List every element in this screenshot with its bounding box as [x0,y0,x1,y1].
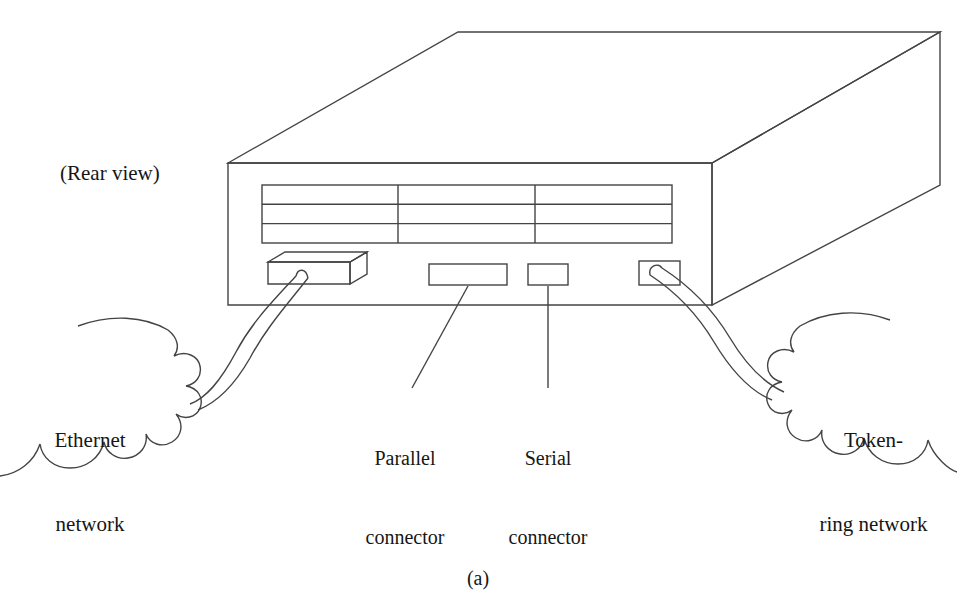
vent-grille [262,185,672,243]
ethernet-cable-edge-outer [190,276,296,404]
figure-caption: (a) [438,512,518,594]
ethernet-cable-plug-end [296,270,308,278]
token-ring-network-label: Token- ring network [790,372,957,594]
chassis-right-face [712,32,940,305]
token-ring-cable-edge-outer [650,275,772,400]
ethernet-cable-edge-inner [198,278,308,410]
vent-grille-outline [262,185,672,243]
token-ring-cable-plug-end [650,265,662,275]
transceiver-right-face [350,252,367,284]
transceiver-front-face [268,262,350,284]
ethernet-network-label-line1: Ethernet [0,427,180,455]
parallel-connector-leader [412,286,468,388]
rear-view-label-text: (Rear view) [60,160,260,188]
ethernet-network-label-line2: network [0,511,180,539]
parallel-connector-label-line1: Parallel [330,445,480,471]
token-ring-network-label-line2: ring network [790,511,957,539]
token-ring-cable-edge-inner [662,268,784,392]
serial-connector-label-line1: Serial [478,445,618,471]
chassis-top-face [228,32,940,163]
parallel-connector-port [429,264,507,285]
ethernet-network-label: Ethernet network [0,372,180,594]
ethernet-cable [190,270,308,410]
rear-view-label: (Rear view) [60,105,260,244]
figure-caption-text: (a) [438,565,518,591]
serial-connector-port [528,264,568,285]
token-ring-network-label-line1: Token- [790,427,957,455]
ethernet-transceiver-port [268,252,367,284]
